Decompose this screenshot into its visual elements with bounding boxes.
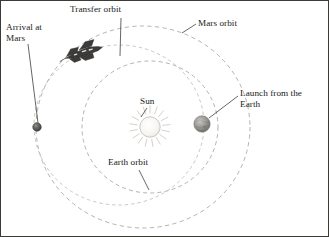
label-transfer-orbit: Transfer orbit	[70, 4, 121, 15]
diagram-canvas	[0, 0, 329, 237]
sun-body	[130, 106, 170, 147]
label-sun: Sun	[140, 96, 154, 107]
mars-body	[33, 123, 42, 132]
leader-arrival-at-mars	[28, 44, 38, 123]
earth-body	[194, 116, 210, 132]
leader-transfer-orbit	[120, 18, 121, 56]
leader-earth-orbit	[139, 170, 149, 190]
label-launch-from-earth: Launch from the Earth	[240, 88, 302, 109]
label-mars-orbit: Mars orbit	[198, 18, 237, 29]
label-earth-orbit: Earth orbit	[108, 157, 148, 168]
leader-mars-orbit	[182, 24, 196, 33]
orbital-transfer-diagram: Arrival at Mars Transfer orbit Mars orbi…	[0, 0, 329, 237]
spacecraft-icon	[56, 38, 104, 68]
leader-launch-from-earth	[209, 96, 238, 118]
label-arrival-at-mars: Arrival at Mars	[6, 22, 42, 43]
sun-disc	[140, 117, 160, 137]
